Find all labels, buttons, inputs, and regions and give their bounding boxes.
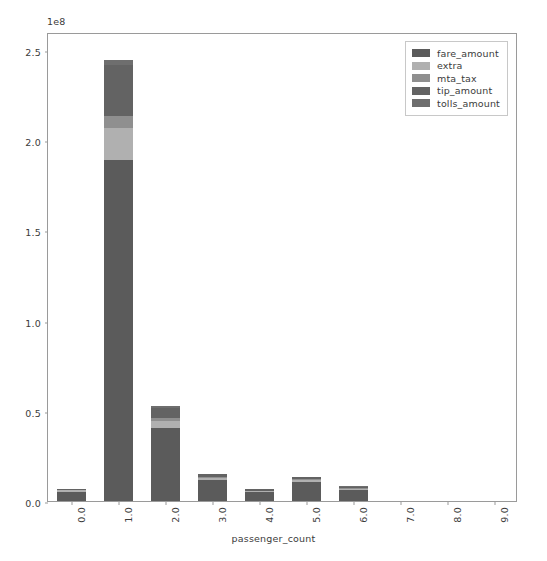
bar-stack bbox=[339, 486, 368, 501]
x-axis-tick-label: 3.0 bbox=[217, 507, 228, 523]
legend-swatch-icon bbox=[412, 74, 430, 82]
x-axis-tick-mark bbox=[212, 501, 213, 505]
bar-segment-tip-amount bbox=[151, 408, 180, 418]
matplotlib-figure: 1e8 0.00.51.01.52.02.5 0.01.02.03.04.05.… bbox=[0, 0, 547, 561]
x-axis-tick-label: 7.0 bbox=[405, 507, 416, 523]
legend-label: fare_amount bbox=[437, 48, 499, 59]
legend-swatch-icon bbox=[412, 99, 430, 107]
bar-segment-fare-amount bbox=[57, 492, 86, 501]
legend-item: mta_tax bbox=[412, 72, 500, 85]
x-axis-tick-label: 0.0 bbox=[76, 507, 87, 523]
x-axis-tick-mark bbox=[353, 501, 354, 505]
bar-segment-fare-amount bbox=[339, 490, 368, 501]
bar-segment-fare-amount bbox=[104, 160, 133, 501]
legend-swatch-icon bbox=[412, 87, 430, 95]
x-axis-tick-label: 6.0 bbox=[358, 507, 369, 523]
x-axis-tick-label: 2.0 bbox=[170, 507, 181, 523]
bar-stack bbox=[292, 477, 321, 501]
legend-label: tolls_amount bbox=[437, 98, 500, 109]
x-axis-tick-mark bbox=[118, 501, 119, 505]
x-axis-tick-mark bbox=[306, 501, 307, 505]
bar-stack bbox=[245, 489, 274, 501]
bar-segment-mta-tax bbox=[104, 116, 133, 128]
x-axis-tick-mark bbox=[400, 501, 401, 505]
bar-stack bbox=[151, 406, 180, 501]
x-axis-tick-mark bbox=[165, 501, 166, 505]
bar-segment-tip-amount bbox=[104, 65, 133, 116]
x-axis-tick-mark bbox=[71, 501, 72, 505]
x-axis-tick-mark bbox=[259, 501, 260, 505]
x-axis-tick-mark bbox=[494, 501, 495, 505]
y-axis-tick-mark bbox=[45, 503, 49, 504]
x-axis-tick-label: 1.0 bbox=[123, 507, 134, 523]
bar-segment-extra bbox=[104, 128, 133, 160]
legend-item: tolls_amount bbox=[412, 97, 500, 110]
bar-stack bbox=[104, 60, 133, 501]
legend: fare_amountextramta_taxtip_amounttolls_a… bbox=[405, 41, 508, 116]
legend-swatch-icon bbox=[412, 49, 430, 57]
bar-segment-fare-amount bbox=[245, 492, 274, 501]
legend-label: extra bbox=[437, 60, 463, 71]
legend-item: extra bbox=[412, 60, 500, 73]
bar-segment-extra bbox=[151, 421, 180, 428]
x-axis-tick-mark bbox=[447, 501, 448, 505]
bar-stack bbox=[198, 474, 227, 501]
x-axis-tick-label: 9.0 bbox=[499, 507, 510, 523]
x-axis-tick-label: 8.0 bbox=[452, 507, 463, 523]
bar-segment-fare-amount bbox=[198, 480, 227, 501]
legend-label: tip_amount bbox=[437, 85, 492, 96]
legend-label: mta_tax bbox=[437, 73, 477, 84]
x-axis-tick-label: 4.0 bbox=[264, 507, 275, 523]
legend-item: tip_amount bbox=[412, 85, 500, 98]
y-axis-offset-text: 1e8 bbox=[47, 16, 66, 27]
x-axis-tick-label: 5.0 bbox=[311, 507, 322, 523]
legend-item: fare_amount bbox=[412, 47, 500, 60]
x-axis-label: passenger_count bbox=[0, 533, 547, 544]
bar-segment-fare-amount bbox=[292, 482, 321, 501]
plot-area: 0.00.51.01.52.02.5 0.01.02.03.04.05.06.0… bbox=[47, 33, 517, 502]
bar-segment-fare-amount bbox=[151, 428, 180, 501]
bar-stack bbox=[57, 489, 86, 501]
legend-swatch-icon bbox=[412, 62, 430, 70]
